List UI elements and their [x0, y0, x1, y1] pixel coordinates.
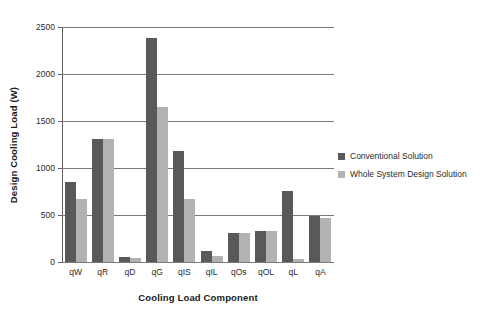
legend-item-label: Whole System Design Solution	[350, 169, 467, 179]
y-axis-title-label: Design Cooling Load (W)	[8, 87, 19, 203]
y-axis-tick-label: 2000	[21, 70, 55, 79]
y-axis-title: Design Cooling Load (W)	[0, 0, 26, 286]
plot-area	[62, 27, 334, 262]
bar	[130, 258, 141, 262]
bar-group	[228, 27, 250, 262]
bar	[92, 139, 103, 262]
bar	[293, 259, 304, 262]
bar-group	[173, 27, 195, 262]
bar	[103, 139, 114, 262]
chart-legend: Conventional SolutionWhole System Design…	[338, 148, 498, 184]
legend-item-label: Conventional Solution	[350, 151, 433, 161]
bar	[184, 199, 195, 262]
bar	[320, 218, 331, 262]
y-axis-tick-label: 2500	[21, 23, 55, 32]
legend-swatch-icon	[338, 153, 345, 160]
bar	[266, 231, 277, 262]
y-axis-tick-label: 1000	[21, 164, 55, 173]
bar	[212, 256, 223, 262]
legend-swatch-icon	[338, 171, 345, 178]
gridline	[62, 262, 334, 263]
legend-item: Conventional Solution	[338, 148, 498, 164]
bar	[76, 199, 87, 262]
bar	[228, 233, 239, 262]
x-axis-tick-label: qA	[303, 268, 337, 277]
y-axis-tick-label: 1500	[21, 117, 55, 126]
bar	[255, 231, 266, 262]
bar-group	[255, 27, 277, 262]
bar	[119, 257, 130, 262]
bar-group	[65, 27, 87, 262]
bar-group	[201, 27, 223, 262]
bar	[157, 107, 168, 262]
y-axis-tick-label: 500	[21, 211, 55, 220]
bar-group	[282, 27, 304, 262]
bar-group	[146, 27, 168, 262]
bar-chart: Design Cooling Load (W) 0500100015002000…	[0, 0, 504, 318]
x-axis-title: Cooling Load Component	[62, 292, 334, 303]
bar	[173, 151, 184, 262]
y-axis-tick-label: 0	[21, 258, 55, 267]
bar	[201, 251, 212, 262]
legend-item: Whole System Design Solution	[338, 166, 498, 182]
bar	[309, 216, 320, 262]
bar	[239, 233, 250, 262]
bar-group	[309, 27, 331, 262]
bar	[65, 182, 76, 262]
bar	[146, 38, 157, 262]
bar-group	[92, 27, 114, 262]
bar	[282, 191, 293, 262]
bar-group	[119, 27, 141, 262]
